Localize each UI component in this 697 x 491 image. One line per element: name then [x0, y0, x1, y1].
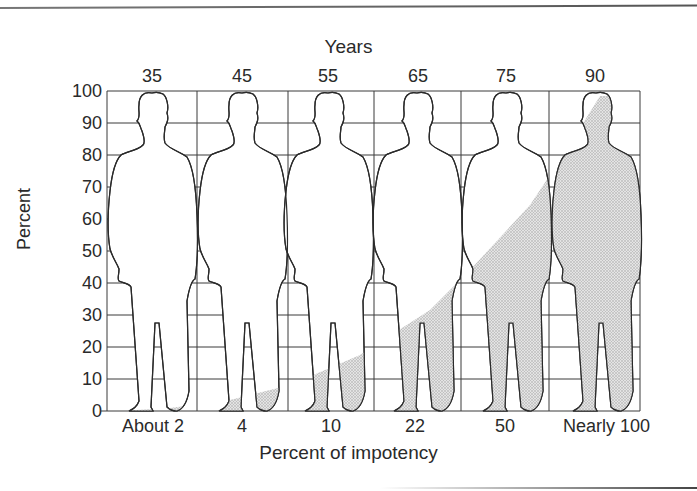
x-axis-title: Percent of impotency: [0, 442, 697, 464]
impotency-label: 22: [405, 416, 425, 437]
impotency-label: Nearly 100: [563, 416, 650, 437]
impotency-label: 10: [321, 416, 341, 437]
impotency-label: About 2: [122, 416, 184, 437]
impotency-label: 50: [495, 416, 515, 437]
impotency-label: 4: [237, 416, 247, 437]
